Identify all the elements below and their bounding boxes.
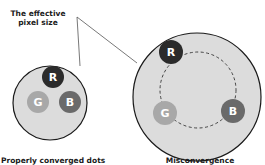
right-caption: Misconvergence	[166, 156, 234, 165]
blue-dot-misconverged: B	[221, 99, 245, 123]
blue-dot-converged: B	[59, 91, 81, 113]
svg-text:R: R	[49, 71, 58, 84]
red-dot-misconverged: R	[159, 40, 183, 64]
misconverged-pixel: R G B	[133, 33, 261, 161]
diagram-canvas: The effective pixel size R G B	[0, 0, 265, 165]
converged-pixel: R G B	[13, 66, 87, 140]
green-dot-converged: G	[27, 91, 49, 113]
svg-text:B: B	[229, 105, 237, 118]
callout-label-line2: pixel size	[18, 18, 58, 27]
svg-text:R: R	[167, 46, 176, 59]
svg-text:G: G	[33, 96, 42, 109]
convergence-diagram: The effective pixel size R G B	[0, 0, 265, 165]
left-caption: Properly converged dots	[1, 156, 106, 165]
callout-label-line1: The effective	[11, 9, 66, 18]
red-dot-converged: R	[42, 66, 64, 88]
callout-line-left	[77, 17, 80, 66]
svg-text:B: B	[66, 96, 74, 109]
svg-text:G: G	[160, 107, 169, 120]
callout-line-right	[77, 17, 137, 63]
green-dot-misconverged: G	[153, 101, 177, 125]
